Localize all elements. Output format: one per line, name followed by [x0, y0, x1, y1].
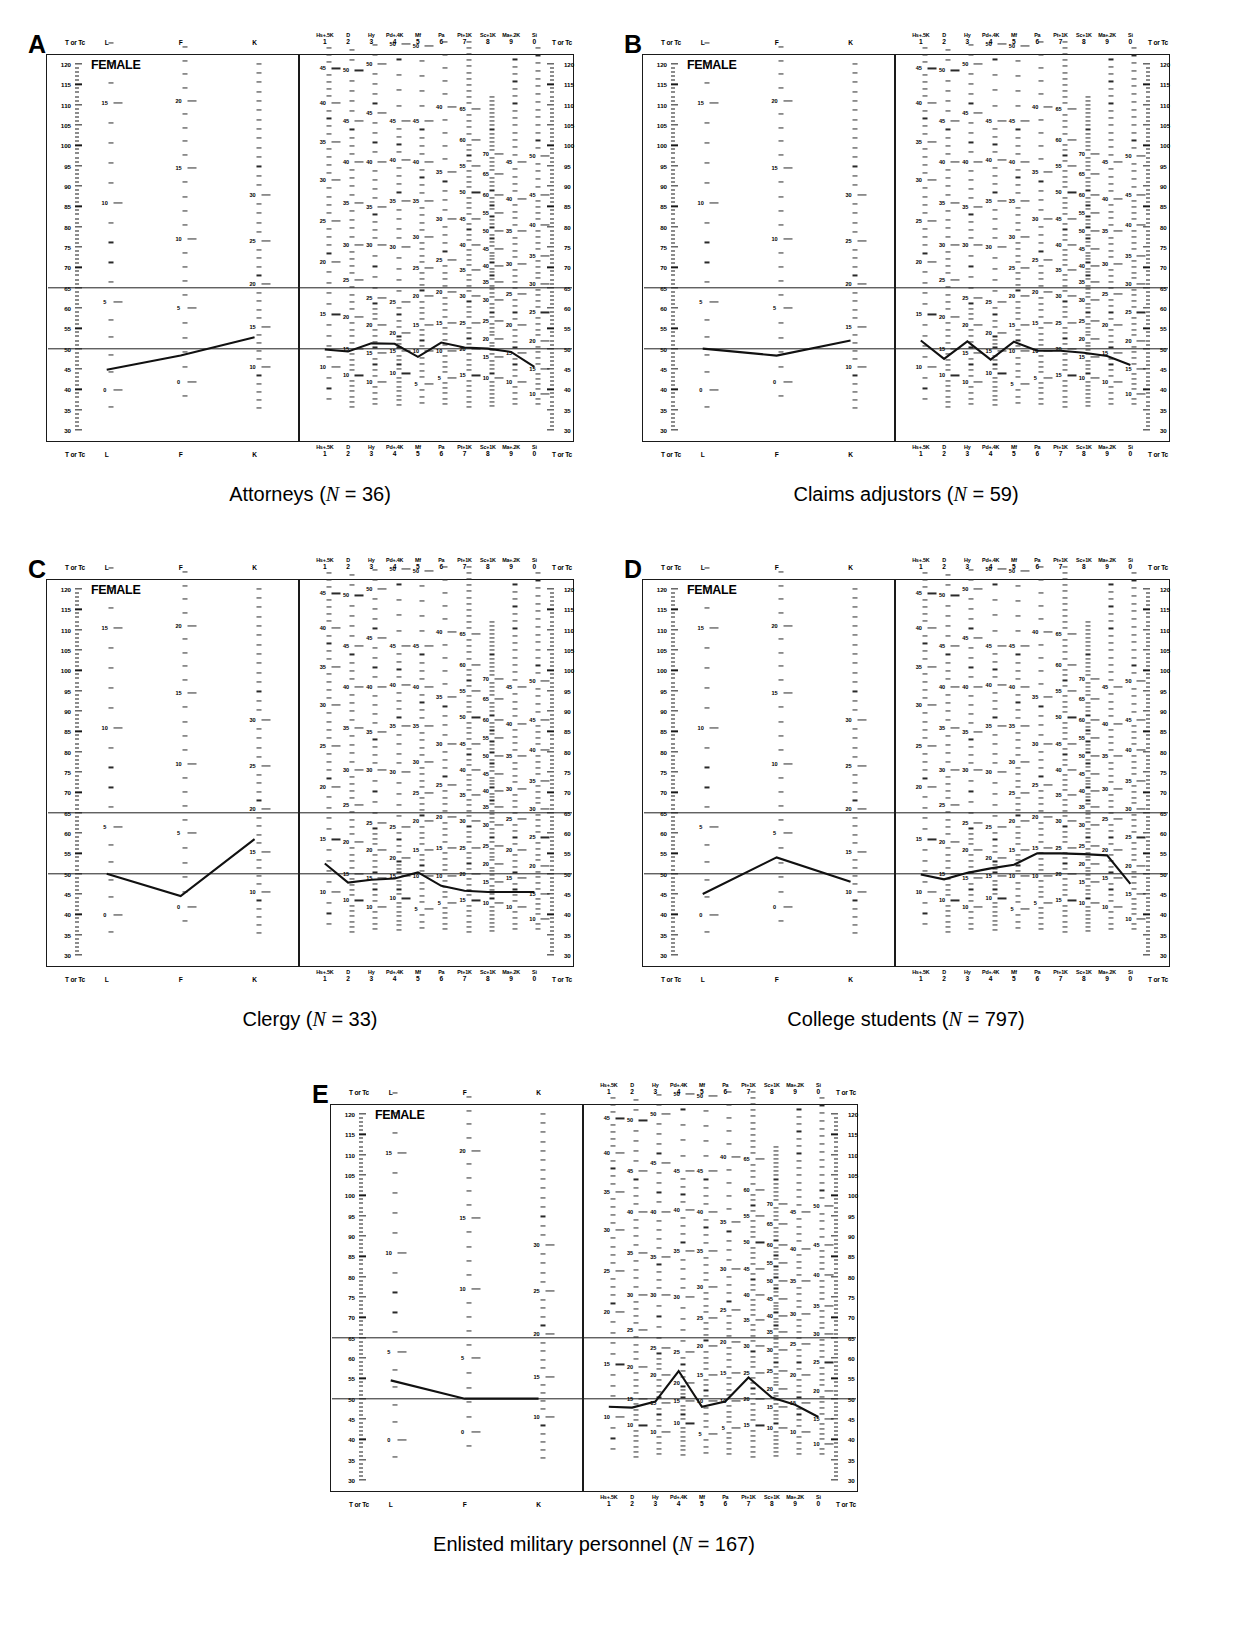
t-axis-label-left: T or Tc: [57, 452, 93, 459]
caption-n-symbol: N: [949, 1008, 962, 1030]
t-axis-label-right: T or Tc: [1148, 452, 1188, 459]
caption-group-name: Clergy (: [242, 1008, 312, 1030]
caption-n-symbol: N: [312, 1008, 325, 1030]
panel-letter-a: A: [28, 30, 46, 59]
scale-header-0: Si0: [1108, 970, 1152, 983]
scale-header-F: F: [163, 452, 199, 459]
caption-n-value: = 59): [967, 483, 1019, 505]
scale-header-K: K: [833, 977, 869, 984]
profile-line: [46, 557, 574, 989]
panel-caption-c: Clergy (N = 33): [10, 1008, 610, 1031]
scale-header-F: F: [447, 1502, 483, 1509]
caption-n-value: = 36): [339, 483, 391, 505]
scale-header-0: Si0: [512, 970, 556, 983]
panel-letter-d: D: [624, 555, 642, 584]
scale-header-row-bottom: T or TcLFKHs+.5K1D2Hy3Pd+.4K4Mf5Pa6Pt+1K…: [642, 969, 1170, 991]
caption-n-symbol: N: [954, 483, 967, 505]
panel-letter-e: E: [312, 1080, 329, 1109]
scale-header-K: K: [521, 1502, 557, 1509]
scale-header-0: Si0: [796, 1495, 840, 1508]
t-axis-label-left: T or Tc: [653, 977, 689, 984]
t-axis-label-right: T or Tc: [552, 977, 592, 984]
scale-header-K: K: [237, 977, 273, 984]
scale-header-row-bottom: T or TcLFKHs+.5K1D2Hy3Pd+.4K4Mf5Pa6Pt+1K…: [46, 444, 574, 466]
panel-letter-b: B: [624, 30, 642, 59]
scale-header-K: K: [833, 452, 869, 459]
scale-header-row-bottom: T or TcLFKHs+.5K1D2Hy3Pd+.4K4Mf5Pa6Pt+1K…: [46, 969, 574, 991]
profile-line: [330, 1082, 858, 1514]
caption-group-name: Attorneys (: [229, 483, 326, 505]
profile-panel-a: T or TcLFKHs+.5K1D2Hy3Pd+.4K4Mf5Pa6Pt+1K…: [46, 32, 574, 464]
caption-group-name: Enlisted military personnel (: [433, 1533, 679, 1555]
scale-header-F: F: [759, 452, 795, 459]
scale-header-0: Si0: [512, 445, 556, 458]
panel-caption-d: College students (N = 797): [606, 1008, 1206, 1031]
t-axis-label-right: T or Tc: [552, 452, 592, 459]
panel-caption-e: Enlisted military personnel (N = 167): [294, 1533, 894, 1556]
caption-n-symbol: N: [326, 483, 339, 505]
t-axis-label-left: T or Tc: [653, 452, 689, 459]
t-axis-label-left: T or Tc: [57, 977, 93, 984]
scale-header-K: K: [237, 452, 273, 459]
profile-panel-d: T or TcLFKHs+.5K1D2Hy3Pd+.4K4Mf5Pa6Pt+1K…: [642, 557, 1170, 989]
t-axis-label-right: T or Tc: [1148, 977, 1188, 984]
caption-n-value: = 33): [326, 1008, 378, 1030]
t-axis-label-right: T or Tc: [836, 1502, 876, 1509]
scale-header-0: Si0: [1108, 445, 1152, 458]
panel-caption-a: Attorneys (N = 36): [10, 483, 610, 506]
scale-header-row-bottom: T or TcLFKHs+.5K1D2Hy3Pd+.4K4Mf5Pa6Pt+1K…: [330, 1494, 858, 1516]
scale-header-L: L: [685, 452, 721, 459]
scale-header-L: L: [89, 977, 125, 984]
scale-header-L: L: [685, 977, 721, 984]
scale-header-L: L: [373, 1502, 409, 1509]
profile-panel-c: T or TcLFKHs+.5K1D2Hy3Pd+.4K4Mf5Pa6Pt+1K…: [46, 557, 574, 989]
caption-n-symbol: N: [679, 1533, 692, 1555]
panel-letter-c: C: [28, 555, 46, 584]
caption-n-value: = 797): [962, 1008, 1025, 1030]
profile-line: [46, 32, 574, 464]
profile-line: [642, 557, 1170, 989]
panel-caption-b: Claims adjustors (N = 59): [606, 483, 1206, 506]
profile-panel-b: T or TcLFKHs+.5K1D2Hy3Pd+.4K4Mf5Pa6Pt+1K…: [642, 32, 1170, 464]
profile-panel-e: T or TcLFKHs+.5K1D2Hy3Pd+.4K4Mf5Pa6Pt+1K…: [330, 1082, 858, 1514]
profile-line: [642, 32, 1170, 464]
scale-header-L: L: [89, 452, 125, 459]
scale-header-F: F: [163, 977, 199, 984]
caption-group-name: Claims adjustors (: [793, 483, 953, 505]
scale-header-F: F: [759, 977, 795, 984]
caption-group-name: College students (: [787, 1008, 948, 1030]
scale-header-row-bottom: T or TcLFKHs+.5K1D2Hy3Pd+.4K4Mf5Pa6Pt+1K…: [642, 444, 1170, 466]
t-axis-label-left: T or Tc: [341, 1502, 377, 1509]
caption-n-value: = 167): [692, 1533, 755, 1555]
